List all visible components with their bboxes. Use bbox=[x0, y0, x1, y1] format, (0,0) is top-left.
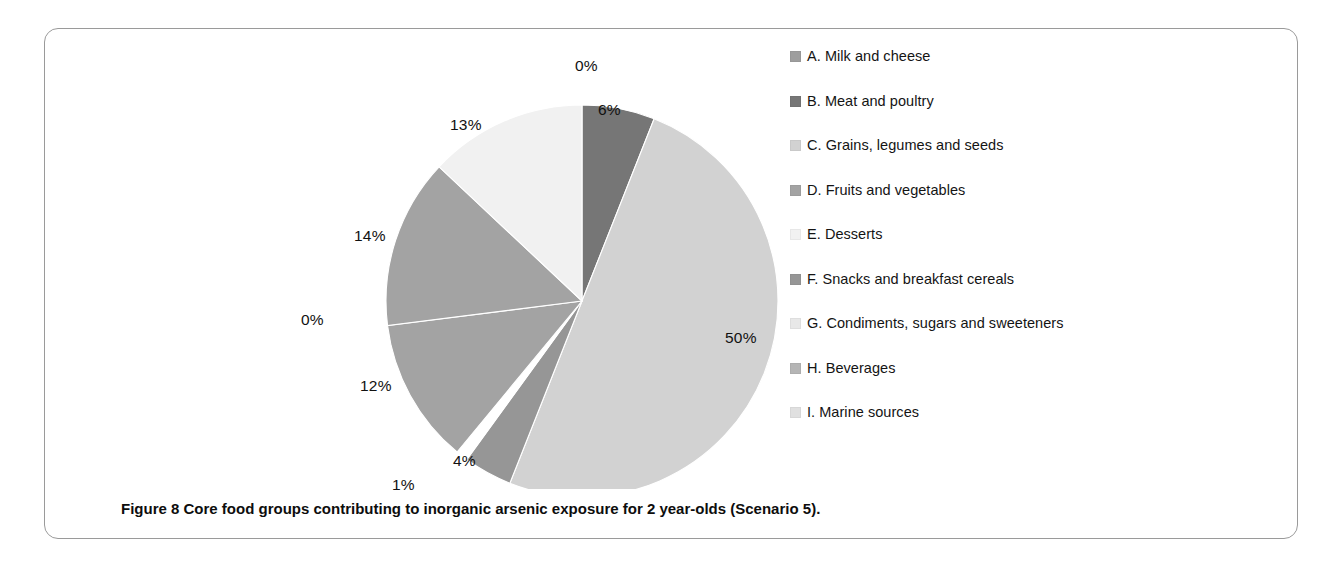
legend-label: A. Milk and cheese bbox=[807, 47, 930, 65]
legend-label: B. Meat and poultry bbox=[807, 92, 934, 110]
legend-item-i[interactable]: I. Marine sources bbox=[790, 403, 1090, 421]
legend-swatch-icon bbox=[790, 407, 801, 418]
legend-label: F. Snacks and breakfast cereals bbox=[807, 270, 1014, 288]
label-f: 4% bbox=[453, 452, 476, 470]
legend-item-a[interactable]: A. Milk and cheese bbox=[790, 47, 1090, 65]
pie-slice-group bbox=[386, 105, 778, 489]
legend-swatch-icon bbox=[790, 140, 801, 151]
caption-text: Core food groups contributing to inorgan… bbox=[184, 500, 821, 517]
legend-swatch-icon bbox=[790, 363, 801, 374]
legend-item-e[interactable]: E. Desserts bbox=[790, 225, 1090, 243]
legend-label: E. Desserts bbox=[807, 225, 883, 243]
legend-swatch-icon bbox=[790, 229, 801, 240]
legend-swatch-icon bbox=[790, 318, 801, 329]
legend-item-d[interactable]: D. Fruits and vegetables bbox=[790, 181, 1090, 199]
label-c: 50% bbox=[725, 329, 757, 347]
legend-swatch-icon bbox=[790, 274, 801, 285]
label-g: 1% bbox=[392, 476, 415, 494]
label-d: 12% bbox=[360, 377, 392, 395]
pie-chart: 0%6%50%4%1%12%14%13%0% bbox=[300, 39, 820, 489]
label-i: 0% bbox=[301, 311, 324, 329]
legend-label: D. Fruits and vegetables bbox=[807, 181, 965, 199]
legend-label: H. Beverages bbox=[807, 359, 895, 377]
legend-swatch-icon bbox=[790, 51, 801, 62]
legend-label: C. Grains, legumes and seeds bbox=[807, 136, 1003, 154]
caption-figure-number: Figure 8 bbox=[121, 500, 179, 517]
legend-swatch-icon bbox=[790, 96, 801, 107]
label-h: 14% bbox=[354, 227, 386, 245]
label-b: 6% bbox=[598, 101, 621, 119]
legend-label: G. Condiments, sugars and sweeteners bbox=[807, 314, 1063, 332]
pie-chart-svg bbox=[300, 39, 820, 489]
figure-caption: Figure 8 Core food groups contributing t… bbox=[121, 499, 1271, 519]
legend-item-g[interactable]: G. Condiments, sugars and sweeteners bbox=[790, 314, 1090, 332]
legend-item-b[interactable]: B. Meat and poultry bbox=[790, 92, 1090, 110]
figure-frame: 0%6%50%4%1%12%14%13%0% A. Milk and chees… bbox=[44, 28, 1298, 539]
legend-label: I. Marine sources bbox=[807, 403, 919, 421]
label-e: 13% bbox=[450, 116, 482, 134]
chart-legend: A. Milk and cheeseB. Meat and poultryC. … bbox=[790, 47, 1090, 448]
label-a: 0% bbox=[575, 57, 598, 75]
legend-item-f[interactable]: F. Snacks and breakfast cereals bbox=[790, 270, 1090, 288]
legend-item-c[interactable]: C. Grains, legumes and seeds bbox=[790, 136, 1090, 154]
legend-swatch-icon bbox=[790, 185, 801, 196]
legend-item-h[interactable]: H. Beverages bbox=[790, 359, 1090, 377]
